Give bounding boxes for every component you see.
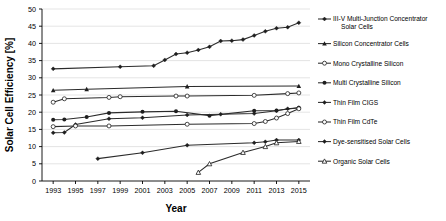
series-5-point-1 <box>74 124 78 128</box>
series-0-point-0 <box>51 67 55 71</box>
series-0-point-15 <box>297 21 301 25</box>
x-axis-title: Year <box>165 203 186 214</box>
series-4-point-0 <box>51 131 55 135</box>
series-0-point-1 <box>118 65 122 69</box>
series-6-point-0 <box>96 157 100 161</box>
series-2-point-0 <box>51 100 55 104</box>
series-2-point-3 <box>118 95 122 99</box>
solar-cell-efficiency-chart: 0510152025303540455019931995199719992001… <box>0 0 446 221</box>
legend-marker-3 <box>323 81 327 85</box>
series-0-point-4 <box>174 52 178 56</box>
series-0-point-11 <box>252 33 256 37</box>
series-0-point-2 <box>152 64 156 68</box>
legend-label-6: Dye-sensitised Solar Cells <box>333 138 411 146</box>
legend-label-4: Thin Film CIGS <box>333 99 379 106</box>
xtick-label-2005: 2005 <box>179 186 195 195</box>
series-5-point-4 <box>252 122 256 126</box>
xtick-label-2011: 2011 <box>246 186 261 195</box>
series-0-point-6 <box>196 48 200 52</box>
xtick-label-1997: 1997 <box>90 186 106 195</box>
series-0-point-8 <box>219 39 223 43</box>
ytick-label-30: 30 <box>28 73 36 82</box>
series-0-point-10 <box>241 38 245 42</box>
series-6-point-4 <box>263 140 267 144</box>
series-3-point-5 <box>174 109 178 113</box>
legend-marker-0 <box>323 17 327 21</box>
ytick-label-25: 25 <box>28 91 36 100</box>
series-2-point-5 <box>185 94 189 98</box>
series-2-point-6 <box>252 93 256 97</box>
series-0-point-5 <box>185 51 189 55</box>
ytick-label-0: 0 <box>32 177 36 186</box>
series-4-point-4 <box>141 116 145 120</box>
series-2-point-1 <box>62 97 66 101</box>
xtick-label-1999: 1999 <box>112 186 128 195</box>
ytick-label-45: 45 <box>28 22 36 31</box>
xtick-label-1993: 1993 <box>45 186 61 195</box>
y-axis-title: Solar Cell Efficiency [%] <box>4 38 15 152</box>
series-6-point-1 <box>141 151 145 155</box>
ytick-label-5: 5 <box>32 159 36 168</box>
xtick-label-2009: 2009 <box>224 186 240 195</box>
legend-marker-4 <box>323 100 327 104</box>
legend-label-5: Thin Film CdTe <box>333 118 378 125</box>
series-0-point-13 <box>275 26 279 30</box>
series-line-7 <box>198 141 299 172</box>
xtick-label-1995: 1995 <box>68 186 84 195</box>
ytick-label-35: 35 <box>28 56 36 65</box>
ytick-label-20: 20 <box>28 108 36 117</box>
series-0-point-12 <box>263 29 267 33</box>
series-5-point-8 <box>297 107 301 111</box>
xtick-label-2013: 2013 <box>269 186 285 195</box>
ytick-label-50: 50 <box>28 5 36 14</box>
xtick-label-2015: 2015 <box>291 186 307 195</box>
series-6-point-3 <box>252 141 256 145</box>
series-3-point-3 <box>107 111 111 115</box>
series-5-point-3 <box>185 122 189 126</box>
series-3-point-4 <box>141 110 145 114</box>
ytick-label-10: 10 <box>28 142 36 151</box>
series-5-point-7 <box>286 112 290 116</box>
legend-label-3: Multi Crystalline Silicon <box>333 79 401 87</box>
series-2-point-4 <box>174 94 178 98</box>
series-0-point-7 <box>208 45 212 49</box>
series-5-point-0 <box>51 125 55 129</box>
xtick-label-2001: 2001 <box>135 186 151 195</box>
series-0-point-3 <box>163 58 167 62</box>
series-2-point-2 <box>107 95 111 99</box>
legend-label-0-line2: Solar Cells <box>341 23 374 30</box>
legend-label-2: Mono Crystalline Silicon <box>333 60 404 68</box>
series-3-point-2 <box>85 115 89 119</box>
series-3-point-1 <box>62 117 66 121</box>
series-2-point-8 <box>297 91 301 95</box>
legend-marker-5 <box>323 120 327 124</box>
series-5-point-5 <box>263 119 267 123</box>
series-4-point-6 <box>219 112 223 116</box>
xtick-label-2003: 2003 <box>157 186 173 195</box>
series-line-6 <box>98 140 299 159</box>
legend-label-0-line1: III-V Multi-Junction Concentrator <box>333 15 428 22</box>
series-0-point-9 <box>230 39 234 43</box>
xtick-label-2007: 2007 <box>202 186 218 195</box>
series-4-point-9 <box>286 107 290 111</box>
series-5-point-2 <box>107 124 111 128</box>
series-4-point-3 <box>107 117 111 121</box>
legend-label-7: Organic Solar Cells <box>333 158 391 166</box>
series-4-point-5 <box>185 113 189 117</box>
series-line-1 <box>53 86 299 90</box>
ytick-label-15: 15 <box>28 125 36 134</box>
legend-marker-6 <box>323 140 327 144</box>
legend-marker-2 <box>323 61 327 65</box>
series-2-point-7 <box>286 92 290 96</box>
chart-figure: 0510152025303540455019931995199719992001… <box>0 0 446 221</box>
legend-label-1: Silicon Concentrator Cells <box>333 40 410 47</box>
series-5-point-6 <box>275 116 279 120</box>
series-3-point-0 <box>51 118 55 122</box>
series-0-point-14 <box>286 25 290 29</box>
ytick-label-40: 40 <box>28 39 36 48</box>
series-line-0 <box>53 23 299 69</box>
